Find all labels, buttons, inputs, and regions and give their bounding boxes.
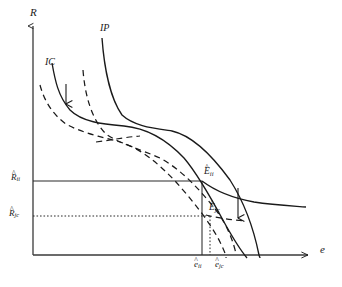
hat-accent-icon: ^ (215, 257, 219, 265)
y-axis-label: R (30, 6, 37, 18)
curve-ip-dashed (83, 70, 236, 254)
curve-ip-dashed-tail (206, 215, 246, 221)
y-tick-R-jc-subscript: jc (15, 211, 20, 218)
eq-E-ii-base: ^E (204, 166, 210, 176)
hat-accent-icon: ^ (210, 200, 214, 208)
y-tick-R-jc-base: ^R (9, 208, 15, 218)
hat-accent-icon: ^ (194, 257, 198, 265)
equilibrium-label-E-jc: ^Ejc (209, 202, 220, 213)
hat-accent-icon: ^ (205, 164, 209, 172)
economics-diagram-figure: R e IC IP ^Rii ^Rjc ^eii ^ejc ^Eii ^Ejc (0, 0, 342, 287)
curve-ic-dashed (40, 85, 226, 258)
hat-accent-icon: ^ (10, 206, 14, 214)
x-tick-e-jc-subscript: jc (219, 262, 224, 269)
eq-E-ii-subscript: ii (210, 170, 214, 177)
eq-E-jc-base: ^E (209, 202, 215, 212)
curve-label-ic: IC (45, 56, 55, 67)
y-tick-label-R-jc: ^Rjc (9, 208, 19, 218)
curve-label-ip: IP (100, 22, 109, 33)
y-tick-R-ii-base: ^R (11, 172, 17, 182)
x-tick-label-e-ii: ^eii (194, 259, 202, 269)
plot-canvas (0, 0, 342, 287)
x-axis-label: e (320, 243, 325, 255)
x-tick-e-ii-subscript: ii (198, 262, 202, 269)
equilibrium-label-E-ii: ^Eii (204, 166, 214, 177)
x-tick-e-ii-base: ^e (194, 259, 198, 269)
curve-ic-solid (52, 63, 247, 258)
y-tick-label-R-ii: ^Rii (11, 172, 20, 182)
hat-accent-icon: ^ (12, 170, 16, 178)
eq-E-jc-subscript: jc (215, 206, 220, 213)
curve-ip-solid (102, 38, 260, 258)
x-tick-e-jc-base: ^e (215, 259, 219, 269)
y-tick-R-ii-subscript: ii (17, 175, 21, 182)
x-tick-label-e-jc: ^ejc (215, 259, 224, 269)
